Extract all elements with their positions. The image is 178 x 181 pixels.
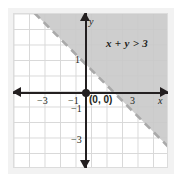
inequality-graph-figure: −3 −1 3 1 −1 −3 x y (0, 0) x + y > 3 [0,0,178,181]
y-axis-down-arrow-icon [80,160,90,168]
y-tick-label-negative-3: −3 [71,135,82,145]
y-tick-label-negative-1: −1 [71,104,82,114]
plot-area: −3 −1 3 1 −1 −3 x y (0, 0) x + y > 3 [13,13,168,168]
origin-coordinate-label: (0, 0) [89,95,112,105]
inequality-annotation-label: x + y > 3 [106,38,148,49]
x-axis-label: x [158,96,162,106]
y-tick-label-positive-1: 1 [75,55,80,65]
x-tick-label-positive-3: 3 [130,96,135,106]
x-tick-label-negative-3: −3 [37,96,48,106]
y-axis-label: y [89,17,93,27]
x-axis-left-arrow-icon [13,87,21,97]
